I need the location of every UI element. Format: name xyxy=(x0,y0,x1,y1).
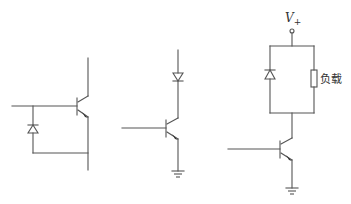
load-resistor-icon xyxy=(311,70,317,87)
emitter-arrow-icon xyxy=(82,112,88,118)
emitter-arrow-icon xyxy=(172,134,178,140)
load-label: 负载 xyxy=(320,72,342,86)
collector-lead xyxy=(281,138,292,144)
diode-icon xyxy=(265,70,275,79)
collector-lead xyxy=(167,118,178,124)
circuit-2 xyxy=(122,50,184,177)
emitter-arrow-icon xyxy=(286,155,292,161)
collector-lead xyxy=(78,96,88,102)
diode-icon xyxy=(28,125,38,133)
circuit-3: V+ 负载 xyxy=(228,11,342,194)
emitter-lead xyxy=(167,132,178,139)
ground-icon xyxy=(172,171,184,177)
supply-label: V+ xyxy=(285,11,301,27)
circuit-figure: V+ 负载 xyxy=(0,0,351,204)
diode-icon xyxy=(173,73,183,81)
circuit-1 xyxy=(12,58,88,170)
ground-icon xyxy=(286,188,298,194)
emitter-lead xyxy=(281,153,292,160)
supply-terminal-icon xyxy=(290,29,294,33)
